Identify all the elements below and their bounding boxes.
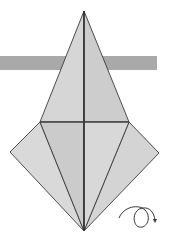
origami-diagram	[0, 0, 171, 251]
diagram-canvas	[0, 0, 171, 251]
turn-over-arrow-icon	[119, 207, 157, 227]
